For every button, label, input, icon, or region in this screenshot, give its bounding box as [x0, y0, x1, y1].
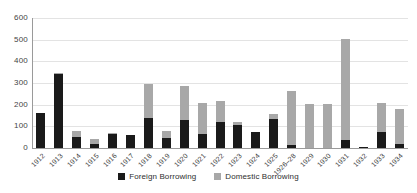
bar-segment-domestic[interactable] — [395, 109, 404, 144]
x-axis-tick-label: 1920 — [173, 152, 189, 168]
bar-group[interactable] — [390, 18, 408, 148]
x-axis-tick-label: 1921 — [191, 152, 207, 168]
bar-segment-domestic[interactable] — [162, 131, 171, 139]
bar-group[interactable] — [354, 18, 372, 148]
x-axis-tick-label: 1930 — [316, 152, 332, 168]
bar-group[interactable] — [86, 18, 104, 148]
bar-group[interactable] — [175, 18, 193, 148]
bar-segment-domestic[interactable] — [287, 91, 296, 146]
bar-stack[interactable] — [126, 135, 135, 148]
x-axis-tick-label: 1929 — [298, 152, 314, 168]
x-axis-tick-label: 1933 — [370, 152, 386, 168]
bar-segment-foreign[interactable] — [251, 132, 260, 148]
bar-stack[interactable] — [144, 84, 153, 148]
bar-segment-foreign[interactable] — [359, 147, 368, 148]
bar-segment-foreign[interactable] — [198, 134, 207, 148]
bar-group[interactable] — [283, 18, 301, 148]
y-axis-tick-label: 600 — [0, 14, 28, 22]
bar-stack[interactable] — [108, 133, 117, 148]
legend-entry[interactable]: Foreign Borrowing — [118, 172, 196, 181]
bar-group[interactable] — [122, 18, 140, 148]
bar-segment-domestic[interactable] — [180, 86, 189, 120]
bar-segment-foreign[interactable] — [126, 135, 135, 148]
bar-segment-domestic[interactable] — [377, 103, 386, 132]
bar-segment-domestic[interactable] — [216, 101, 225, 122]
x-axis-tick-label: 1916 — [101, 152, 117, 168]
bar-stack[interactable] — [36, 113, 45, 148]
y-axis-tick-label: 0 — [0, 144, 28, 152]
bar-group[interactable] — [50, 18, 68, 148]
bar-stack[interactable] — [305, 104, 314, 148]
legend-entry[interactable]: Domestic Borrowing — [214, 172, 298, 181]
bar-stack[interactable] — [377, 103, 386, 149]
x-axis-tick-label: 1922 — [209, 152, 225, 168]
y-axis-tick-label: 200 — [0, 101, 28, 109]
bar-segment-foreign[interactable] — [162, 138, 171, 148]
bar-segment-domestic[interactable] — [144, 84, 153, 118]
x-axis-tick-label: 1914 — [65, 152, 81, 168]
bar-segment-foreign[interactable] — [233, 125, 242, 148]
bar-group[interactable] — [157, 18, 175, 148]
x-axis-tick-label: 1923 — [227, 152, 243, 168]
bar-segment-foreign[interactable] — [90, 144, 99, 148]
bar-stack[interactable] — [395, 109, 404, 148]
bar-segment-foreign[interactable] — [377, 132, 386, 148]
bar-group[interactable] — [265, 18, 283, 148]
bar-stack[interactable] — [162, 131, 171, 148]
bar-stack[interactable] — [269, 114, 278, 148]
x-axis-tick-label: 1932 — [352, 152, 368, 168]
bar-stack[interactable] — [287, 91, 296, 148]
bar-segment-foreign[interactable] — [269, 119, 278, 148]
bar-group[interactable] — [139, 18, 157, 148]
bar-segment-foreign[interactable] — [108, 134, 117, 148]
bar-segment-domestic[interactable] — [341, 39, 350, 141]
bar-group[interactable] — [247, 18, 265, 148]
bar-stack[interactable] — [233, 122, 242, 148]
bar-group[interactable] — [104, 18, 122, 148]
bar-stack[interactable] — [54, 73, 63, 148]
bar-group[interactable] — [68, 18, 86, 148]
bar-segment-foreign[interactable] — [395, 144, 404, 148]
bar-segment-domestic[interactable] — [305, 104, 314, 148]
bar-group[interactable] — [229, 18, 247, 148]
bar-segment-foreign[interactable] — [341, 140, 350, 148]
bar-segment-foreign[interactable] — [144, 118, 153, 148]
domestic-swatch — [214, 173, 221, 180]
bar-stack[interactable] — [323, 104, 332, 148]
bar-series-group — [32, 18, 408, 148]
bar-group[interactable] — [319, 18, 337, 148]
x-axis-tick-label: 1934 — [388, 152, 404, 168]
bar-segment-foreign[interactable] — [287, 145, 296, 148]
bar-stack[interactable] — [341, 39, 350, 148]
x-axis-tick-label: 1931 — [334, 152, 350, 168]
bar-segment-foreign[interactable] — [72, 137, 81, 148]
bar-stack[interactable] — [180, 86, 189, 148]
bar-segment-foreign[interactable] — [216, 122, 225, 148]
bar-stack[interactable] — [359, 147, 368, 148]
bar-group[interactable] — [372, 18, 390, 148]
bar-stack[interactable] — [216, 101, 225, 148]
bar-stack[interactable] — [198, 103, 207, 148]
y-axis-tick-label: 500 — [0, 36, 28, 44]
bar-group[interactable] — [211, 18, 229, 148]
legend-label: Foreign Borrowing — [129, 172, 196, 181]
x-axis-tick-label: 1919 — [155, 152, 171, 168]
bar-group[interactable] — [32, 18, 50, 148]
bar-segment-domestic[interactable] — [198, 103, 207, 134]
bar-segment-foreign[interactable] — [36, 113, 45, 148]
bar-segment-foreign[interactable] — [180, 120, 189, 148]
bar-stack[interactable] — [72, 131, 81, 148]
bar-group[interactable] — [193, 18, 211, 148]
bar-segment-domestic[interactable] — [323, 104, 332, 148]
y-axis-tick-label: 100 — [0, 122, 28, 130]
bar-group[interactable] — [301, 18, 319, 148]
x-axis-tick-label: 1917 — [119, 152, 135, 168]
bar-group[interactable] — [336, 18, 354, 148]
x-axis-tick-label: 1912 — [30, 152, 46, 168]
legend-label: Domestic Borrowing — [225, 172, 298, 181]
bar-stack[interactable] — [90, 139, 99, 148]
chart-legend: Foreign BorrowingDomestic Borrowing — [0, 172, 417, 181]
bar-segment-foreign[interactable] — [54, 74, 63, 148]
bar-stack[interactable] — [251, 132, 260, 148]
bar-chart: 0100200300400500600 19121913191419151916… — [0, 0, 417, 193]
